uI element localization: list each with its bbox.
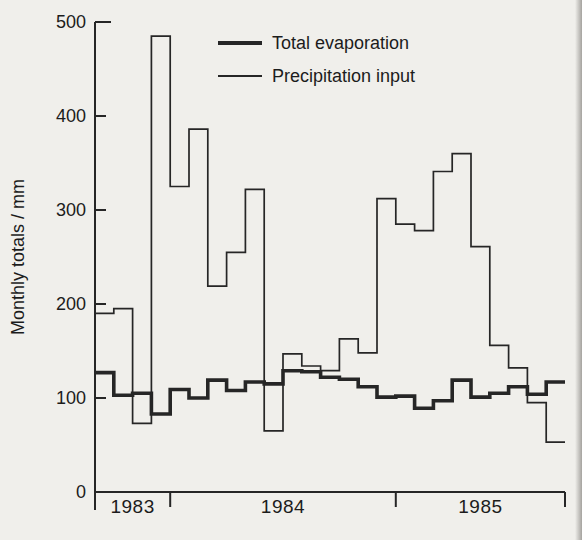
y-tick-label: 200	[56, 294, 86, 314]
legend-label: Precipitation input	[272, 66, 415, 86]
y-tick-label: 0	[76, 482, 86, 502]
year-label: 1985	[458, 496, 502, 517]
y-tick-label: 300	[56, 200, 86, 220]
chart-canvas: 0100200300400500198319841985Total evapor…	[0, 0, 582, 540]
precipitation-line	[95, 36, 565, 442]
y-tick-label: 500	[56, 12, 86, 32]
y-axis-title: Monthly totals / mm	[8, 179, 28, 335]
year-label: 1984	[261, 496, 305, 517]
evaporation-precipitation-figure: 0100200300400500198319841985Total evapor…	[0, 0, 582, 540]
y-tick-label: 400	[56, 106, 86, 126]
legend-label: Total evaporation	[272, 33, 409, 53]
evaporation-line	[95, 371, 565, 414]
y-tick-label: 100	[56, 388, 86, 408]
year-label: 1983	[110, 496, 154, 517]
